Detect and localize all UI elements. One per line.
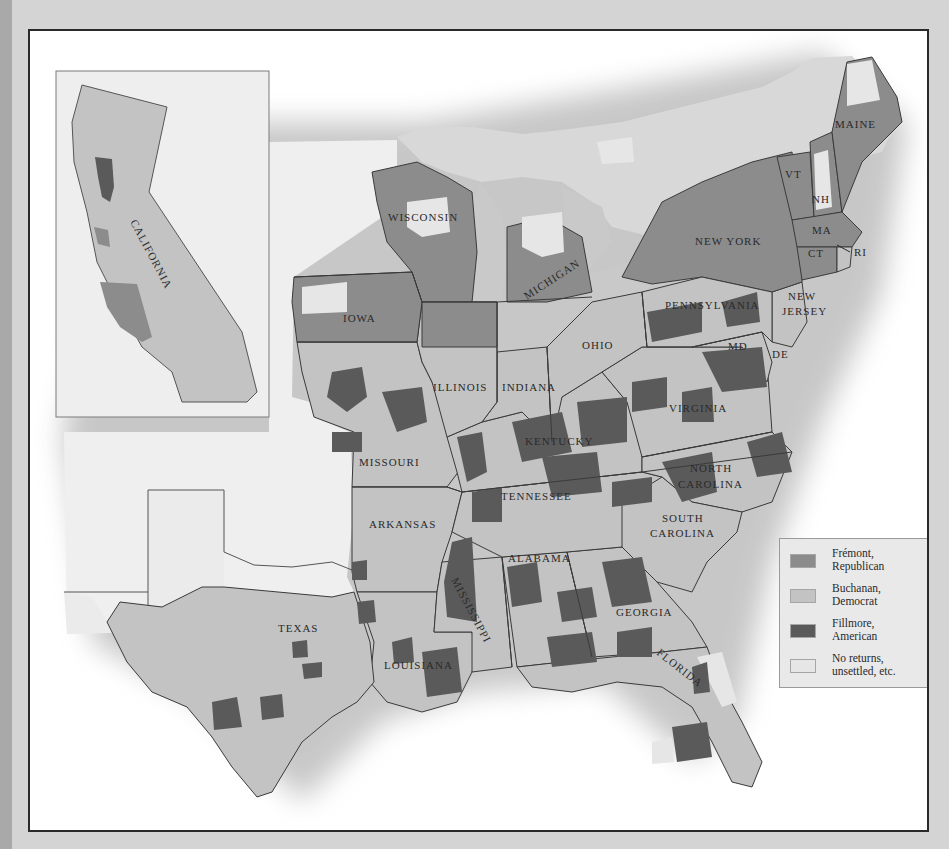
legend-label-line1: No returns,	[832, 652, 928, 665]
label-pennsylvania: PENNSYLVANIA	[665, 299, 760, 311]
legend-item-republican: Frémont, Republican	[780, 547, 929, 583]
label-south-carolina-2: CAROLINA	[650, 527, 715, 539]
label-massachusetts: MA	[812, 224, 832, 236]
legend-label-line1: Frémont,	[832, 547, 928, 560]
legend-label-line2: Democrat	[832, 595, 928, 608]
label-iowa: IOWA	[343, 312, 376, 324]
label-virginia: VIRGINIA	[669, 402, 727, 414]
label-maine: MAINE	[835, 118, 876, 130]
swatch-republican	[790, 554, 816, 568]
label-vermont: VT	[785, 168, 802, 180]
label-new-york: NEW YORK	[695, 235, 761, 247]
label-north-carolina-2: CAROLINA	[678, 478, 743, 490]
label-north-carolina-1: NORTH	[690, 462, 732, 474]
swatch-democrat	[790, 589, 816, 603]
legend-label-line1: Fillmore,	[832, 617, 928, 630]
legend-item-democrat: Buchanan, Democrat	[780, 582, 929, 618]
label-tennessee: TENNESSEE	[501, 490, 572, 502]
label-new-hampshire: NH	[812, 193, 830, 205]
legend-label-line2: American	[832, 630, 928, 643]
label-arkansas: ARKANSAS	[369, 518, 436, 530]
swatch-american	[790, 624, 816, 638]
swatch-no-returns	[790, 659, 816, 673]
legend-item-no-returns: No returns, unsettled, etc.	[780, 652, 929, 688]
map-frame: CALIFORNIA MAINE VT NH MA CT RI NEW YORK…	[28, 29, 929, 832]
election-map: CALIFORNIA MAINE VT NH MA CT RI NEW YORK…	[30, 31, 927, 830]
label-new-jersey-1: NEW	[788, 290, 816, 302]
legend-item-american: Fillmore, American	[780, 617, 929, 653]
label-south-carolina-1: SOUTH	[662, 512, 704, 524]
label-missouri: MISSOURI	[359, 456, 420, 468]
legend-label-line2: unsettled, etc.	[832, 665, 928, 678]
label-kentucky: KENTUCKY	[525, 435, 594, 447]
label-alabama: ALABAMA	[508, 552, 571, 564]
label-ohio: OHIO	[582, 339, 614, 351]
label-wisconsin: WISCONSIN	[388, 211, 458, 223]
label-delaware: DE	[772, 348, 789, 360]
label-texas: TEXAS	[278, 622, 318, 634]
label-new-jersey-2: JERSEY	[782, 305, 827, 317]
california-inset: CALIFORNIA	[56, 71, 269, 417]
legend-label-line1: Buchanan,	[832, 582, 928, 595]
label-georgia: GEORGIA	[616, 606, 673, 618]
label-rhode-island: RI	[854, 246, 867, 258]
map-legend: Frémont, Republican Buchanan, Democrat F…	[779, 538, 929, 688]
label-louisiana: LOUISIANA	[384, 659, 453, 671]
legend-label-line2: Republican	[832, 560, 928, 573]
label-illinois: ILLINOIS	[433, 381, 487, 393]
label-indiana: INDIANA	[502, 381, 556, 393]
label-maryland: MD	[728, 340, 748, 352]
page-edge	[0, 0, 12, 849]
label-connecticut: CT	[808, 247, 824, 259]
